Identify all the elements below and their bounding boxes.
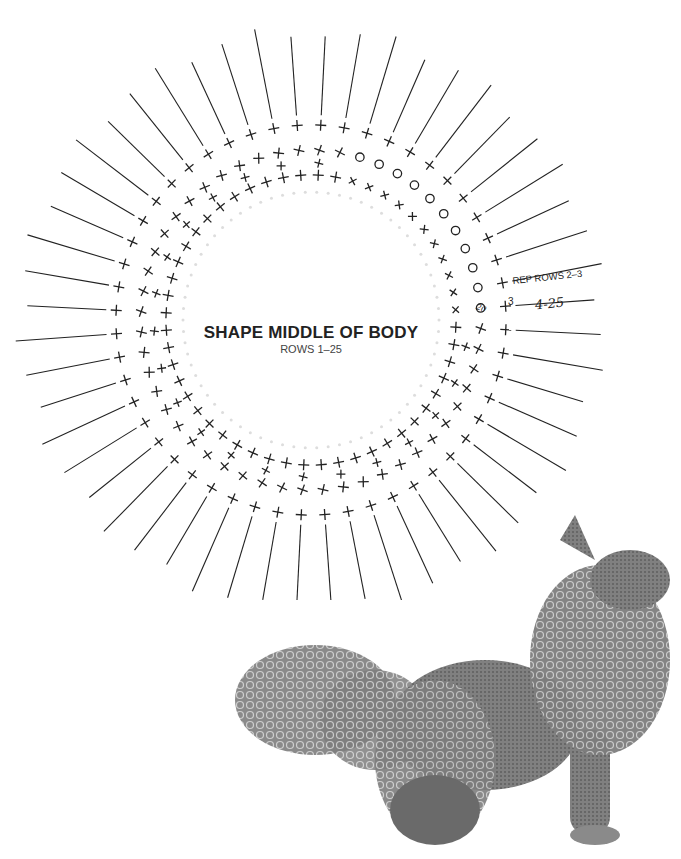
handwritten-rows-note: 4-25 (534, 295, 565, 313)
faint-foundation-ring (182, 191, 441, 450)
chart-title: SHAPE MIDDLE OF BODY (0, 323, 622, 343)
chart-subtitle: ROWS 1–25 (0, 343, 622, 355)
stitch-symbols (111, 120, 511, 520)
crochet-toy-photo (235, 510, 681, 859)
toy-head-mane (530, 515, 670, 755)
row-3-marker: 3 (508, 296, 514, 307)
